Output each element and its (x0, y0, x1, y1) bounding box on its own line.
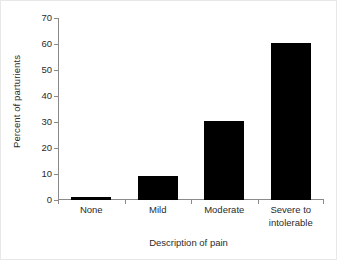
y-tick-label: 30 (41, 116, 52, 127)
bar (71, 197, 111, 200)
y-tick-label: 70 (41, 12, 52, 23)
y-axis-title-text: Percent of parturients (12, 54, 23, 147)
bar (271, 43, 311, 200)
x-axis-title: Description of pain (41, 237, 336, 248)
y-axis-title: Percent of parturients (9, 1, 25, 201)
x-category-label: Severe to intolerable (250, 204, 333, 229)
bar (138, 176, 178, 200)
bar-chart-figure: Percent of parturients 010203040506070 N… (0, 0, 337, 260)
bar (204, 121, 244, 200)
y-tick-label: 40 (41, 90, 52, 101)
y-tick-label: 50 (41, 64, 52, 75)
plot-area: 010203040506070 (58, 18, 324, 200)
bar-series (58, 18, 324, 200)
y-tick-label: 60 (41, 38, 52, 49)
y-tick-label: 20 (41, 142, 52, 153)
y-tick-label: 10 (41, 168, 52, 179)
